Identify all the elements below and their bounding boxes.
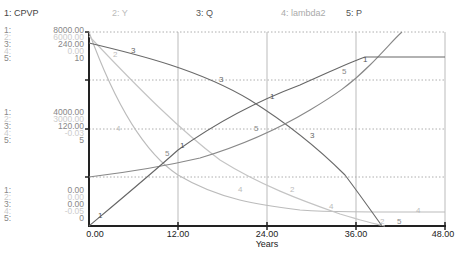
svg-text:4: 4	[238, 185, 243, 194]
svg-text:5: 5	[397, 217, 402, 226]
plot-area: 11 11 222 333 4444 5555	[0, 0, 462, 259]
svg-text:3: 3	[310, 131, 315, 140]
svg-text:3: 3	[131, 46, 136, 55]
x-tick: 48.00	[432, 229, 455, 239]
axis-ticks	[85, 32, 445, 230]
svg-text:2: 2	[380, 217, 385, 226]
x-tick: 36.00	[345, 229, 368, 239]
svg-text:3: 3	[219, 75, 224, 84]
svg-text:5: 5	[165, 149, 170, 158]
svg-text:5: 5	[254, 124, 259, 133]
svg-text:1: 1	[98, 211, 103, 220]
svg-text:1: 1	[363, 55, 368, 64]
svg-text:1: 1	[180, 141, 185, 150]
svg-text:4: 4	[116, 124, 121, 133]
x-tick: 24.00	[256, 229, 279, 239]
svg-text:5: 5	[342, 67, 347, 76]
svg-text:2: 2	[290, 185, 295, 194]
svg-text:1: 1	[270, 92, 275, 101]
series-y	[89, 36, 385, 226]
series-p	[89, 32, 402, 177]
x-tick: 0.00	[86, 229, 104, 239]
x-tick: 12.00	[167, 229, 190, 239]
x-axis-label: Years	[256, 239, 279, 249]
svg-text:4: 4	[416, 206, 421, 215]
svg-text:2: 2	[113, 50, 118, 59]
svg-text:4: 4	[329, 202, 334, 211]
